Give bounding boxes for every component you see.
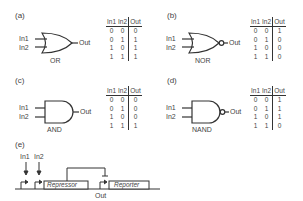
table-row: 000 — [106, 96, 142, 105]
header-in2: In2 — [117, 17, 128, 26]
header-in2: In2 — [117, 86, 128, 95]
circuit-in1-label: In1 — [20, 153, 30, 160]
or-out-label: Out — [79, 39, 90, 46]
nand-gate-icon — [182, 101, 229, 123]
table-row: 011 — [106, 36, 142, 45]
header-in2: In2 — [261, 17, 272, 26]
table-row: 101 — [250, 113, 286, 122]
nor-gate-name: NOR — [195, 57, 211, 64]
nor-gate-icon — [182, 33, 228, 53]
nor-in2-label: In2 — [166, 44, 176, 51]
table-row: 100 — [250, 44, 286, 53]
nor-out-label: Out — [229, 39, 240, 46]
table-row: 010 — [250, 36, 286, 45]
header-out: Out — [128, 86, 142, 95]
nor-in1-label: In1 — [166, 35, 176, 42]
nand-gate-name: NAND — [192, 126, 212, 133]
or-in2-label: In2 — [19, 44, 29, 51]
circuit-out-label: Out — [95, 192, 106, 199]
repressor-gene-label: Repressor — [47, 181, 77, 188]
and-gate-icon — [35, 101, 79, 123]
table-row: 111 — [106, 122, 142, 131]
table-row: 101 — [106, 44, 142, 53]
table-row: 110 — [250, 122, 286, 131]
and-in1-label: In1 — [19, 104, 29, 111]
header-in2: In2 — [261, 86, 272, 95]
nand-out-label: Out — [230, 108, 241, 115]
header-in1: In1 — [106, 86, 117, 95]
nor-truth-table: In1In2Out 001 010 100 110 — [250, 17, 286, 61]
or-gate-name: OR — [50, 57, 61, 64]
nand-truth-table: In1In2Out 001 011 101 110 — [250, 86, 286, 130]
and-in2-label: In2 — [19, 113, 29, 120]
panel-c-label: (c) — [15, 76, 24, 85]
table-row: 010 — [106, 105, 142, 114]
table-row: 011 — [250, 105, 286, 114]
header-out: Out — [272, 17, 286, 26]
table-row: 110 — [250, 53, 286, 62]
table-row: 100 — [106, 113, 142, 122]
or-gate-icon — [35, 33, 78, 53]
nand-in2-label: In2 — [166, 113, 176, 120]
circuit-in2-label: In2 — [34, 153, 44, 160]
table-row: 001 — [250, 96, 286, 105]
header-out: Out — [272, 86, 286, 95]
table-row: 001 — [250, 27, 286, 36]
panel-b-label: (b) — [167, 11, 177, 20]
panel-e-label: (e) — [15, 140, 25, 149]
reporter-gene-label: Reporter — [114, 181, 139, 188]
or-in1-label: In1 — [19, 35, 29, 42]
and-gate-name: AND — [47, 126, 62, 133]
header-in1: In1 — [250, 17, 261, 26]
header-in1: In1 — [106, 17, 117, 26]
and-truth-table: In1In2Out 000 010 100 111 — [106, 86, 142, 130]
header-out: Out — [128, 17, 142, 26]
panel-d-label: (d) — [167, 76, 177, 85]
table-row: 111 — [106, 53, 142, 62]
panel-a-label: (a) — [15, 11, 25, 20]
header-in1: In1 — [250, 86, 261, 95]
nand-in1-label: In1 — [166, 104, 176, 111]
table-row: 000 — [106, 27, 142, 36]
and-out-label: Out — [80, 108, 91, 115]
or-truth-table: In1In2Out 000 011 101 111 — [106, 17, 142, 61]
